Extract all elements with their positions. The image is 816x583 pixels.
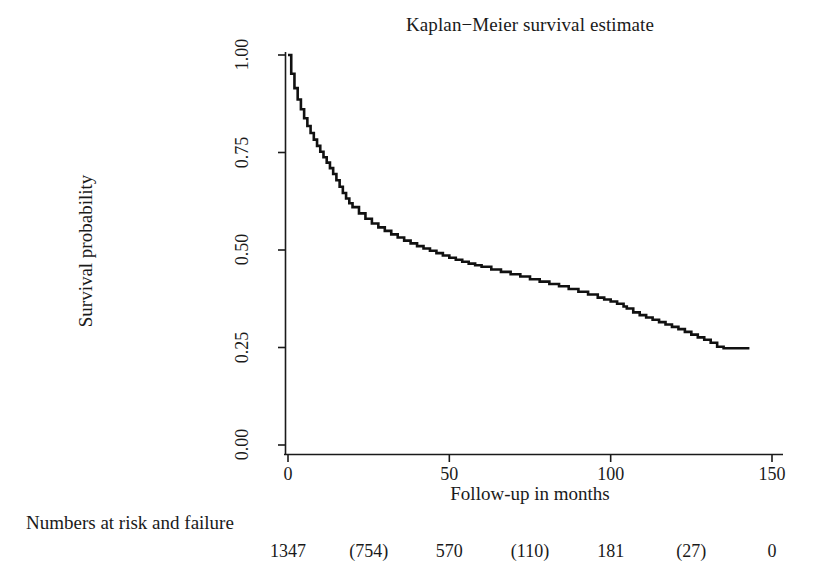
x-axis-tick-label: 150 [742,464,802,485]
y-axis-tick-label: 0.50 [232,218,253,282]
numbers-at-risk-caption: Numbers at risk and failure [26,512,234,534]
numbers-at-risk-value: (110) [490,541,570,562]
x-axis-tick-label: 100 [581,464,641,485]
axes-group [284,52,783,455]
kaplan-meier-figure: Kaplan−Meier survival estimate Survival … [0,0,816,583]
numbers-at-risk-value: 1347 [248,541,328,562]
y-axis-tick-label: 0.00 [232,413,253,477]
plot-canvas [0,0,816,583]
y-axis-ticks [278,55,285,445]
survival-curve [288,55,749,348]
numbers-at-risk-value: 570 [409,541,489,562]
x-axis-tick-label: 0 [258,464,318,485]
y-axis-tick-label: 1.00 [232,23,253,87]
y-axis-tick-label: 0.75 [232,120,253,184]
x-axis-tick-label: 50 [419,464,479,485]
x-axis-ticks [288,455,772,462]
y-axis-tick-label: 0.25 [232,315,253,379]
numbers-at-risk-value: (754) [329,541,409,562]
numbers-at-risk-value: 181 [571,541,651,562]
numbers-at-risk-value: (27) [651,541,731,562]
numbers-at-risk-value: 0 [732,541,812,562]
